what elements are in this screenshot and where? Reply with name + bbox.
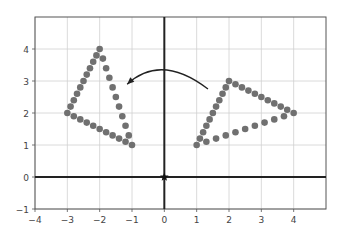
- data-point: [122, 123, 129, 130]
- data-point: [284, 107, 291, 114]
- data-point: [71, 113, 78, 120]
- data-point: [109, 84, 116, 91]
- data-point: [103, 65, 110, 72]
- x-tick-label: −4: [28, 215, 42, 225]
- data-point: [67, 103, 74, 110]
- y-tick-label: 2: [23, 109, 29, 119]
- x-tick-label: −2: [93, 215, 106, 225]
- x-tick-label: 2: [226, 215, 232, 225]
- x-tick-label: −1: [125, 215, 138, 225]
- data-point: [206, 116, 213, 123]
- annotations: [127, 70, 208, 181]
- data-point: [71, 97, 78, 104]
- data-point: [116, 135, 123, 142]
- data-point: [77, 84, 84, 91]
- chart: −4−3−2−101234−101234: [0, 0, 340, 239]
- data-point: [96, 46, 103, 53]
- data-point: [271, 100, 278, 107]
- data-point: [203, 123, 210, 130]
- x-tick-label: −3: [61, 215, 74, 225]
- data-point: [226, 78, 233, 85]
- x-tick-label: 1: [194, 215, 200, 225]
- data-point: [239, 84, 246, 91]
- data-point: [219, 91, 226, 98]
- data-point: [77, 116, 84, 123]
- data-point: [261, 119, 268, 126]
- data-point: [222, 84, 229, 91]
- data-point: [222, 132, 229, 139]
- data-point: [242, 126, 249, 133]
- data-point: [96, 126, 103, 133]
- y-tick-label: 4: [23, 45, 29, 55]
- data-point: [232, 81, 239, 88]
- data-point: [252, 123, 259, 130]
- x-tick-label: 3: [258, 215, 264, 225]
- data-point: [100, 55, 107, 62]
- data-point: [197, 135, 204, 142]
- y-tick-label: 1: [23, 141, 29, 151]
- data-point: [210, 110, 217, 117]
- data-point: [213, 135, 220, 142]
- data-point: [83, 119, 90, 126]
- data-point: [213, 103, 220, 110]
- y-tick-label: 0: [23, 173, 29, 183]
- rotation-arrow-curve: [127, 70, 208, 89]
- data-point: [87, 65, 94, 72]
- data-point: [109, 132, 116, 139]
- data-point: [277, 103, 284, 110]
- data-point: [106, 75, 113, 82]
- grid: [35, 17, 326, 209]
- data-point: [113, 94, 120, 101]
- data-point: [258, 94, 265, 101]
- data-point: [265, 97, 272, 104]
- data-point: [203, 139, 210, 146]
- data-point: [116, 103, 123, 110]
- data-point: [83, 71, 90, 78]
- x-tick-label: 0: [161, 215, 167, 225]
- data-point: [74, 91, 81, 98]
- data-point: [216, 97, 223, 104]
- data-point: [119, 113, 126, 120]
- y-tick-label: −1: [16, 205, 29, 215]
- data-point: [103, 129, 110, 136]
- data-point: [232, 129, 239, 136]
- x-tick-label: 4: [291, 215, 297, 225]
- data-point: [290, 110, 297, 117]
- points: [64, 46, 297, 149]
- data-point: [245, 87, 252, 94]
- data-point: [122, 139, 129, 146]
- data-point: [271, 116, 278, 123]
- data-point: [90, 59, 97, 66]
- data-point: [281, 113, 288, 120]
- data-point: [80, 78, 87, 85]
- tick-labels: −4−3−2−101234−101234: [16, 45, 297, 226]
- data-point: [93, 52, 100, 59]
- data-point: [129, 142, 136, 149]
- y-tick-label: 3: [23, 77, 29, 87]
- data-point: [125, 132, 132, 139]
- data-point: [252, 91, 259, 98]
- data-point: [200, 129, 207, 136]
- data-point: [90, 123, 97, 130]
- data-point: [193, 142, 200, 149]
- data-point: [64, 110, 71, 117]
